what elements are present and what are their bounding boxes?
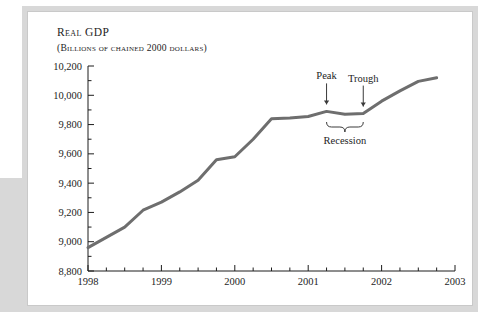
annotation-arrow-head — [324, 100, 329, 104]
x-axis-tick-label: 1999 — [151, 276, 172, 287]
data-series-real-gdp — [88, 78, 437, 248]
y-axis-tick-label: 10,200 — [53, 61, 82, 72]
y-axis-tick-label: 9,400 — [58, 178, 82, 189]
x-axis-tick-label: 2000 — [224, 276, 245, 287]
y-axis-tick-label: 9,600 — [58, 148, 82, 159]
y-axis: 8,8009,0009,2009,4009,6009,80010,00010,2… — [53, 61, 94, 277]
x-axis-tick-label: 2001 — [298, 276, 319, 287]
y-axis-tick-label: 9,800 — [58, 119, 82, 130]
annotation-arrow-head — [361, 103, 366, 107]
y-axis-tick-label: 9,200 — [58, 207, 82, 218]
annotation-label-trough: Trough — [348, 73, 379, 84]
line-chart: 8,8009,0009,2009,4009,6009,80010,00010,2… — [0, 0, 485, 329]
x-axis: 199819992000200120022003 — [78, 265, 466, 287]
chart-screenshot: Real GDP (Billions of chained 2000 dolla… — [0, 0, 485, 329]
annotation-label-peak: Peak — [316, 70, 337, 81]
x-axis-tick-label: 2002 — [371, 276, 392, 287]
x-axis-tick-label: 1998 — [78, 276, 99, 287]
y-axis-tick-label: 10,000 — [53, 90, 82, 101]
x-axis-tick-label: 2003 — [445, 276, 466, 287]
annotation-brace — [327, 122, 364, 132]
y-axis-tick-label: 9,000 — [58, 236, 82, 247]
y-axis-tick-label: 8,800 — [58, 266, 82, 277]
annotation-label-recession: Recession — [324, 135, 367, 146]
